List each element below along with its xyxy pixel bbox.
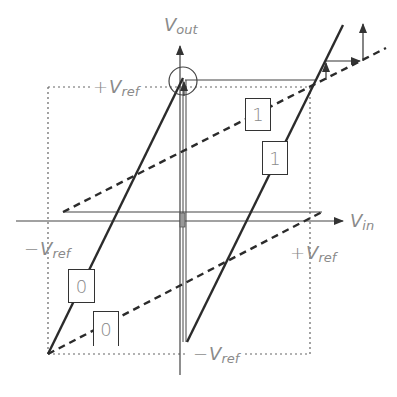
y-axis-label-sub: out bbox=[176, 22, 197, 37]
right-solid-characteristic bbox=[187, 25, 343, 342]
x-axis-label: Vin bbox=[350, 210, 374, 231]
hysteresis-diagram bbox=[0, 0, 397, 397]
sub: ref bbox=[221, 351, 239, 366]
sign: − bbox=[193, 343, 208, 364]
y-axis-label: Vout bbox=[164, 14, 198, 35]
vertical-transition-lines bbox=[183, 80, 186, 342]
minus-vref-left-label: −Vref bbox=[24, 238, 70, 259]
sub: ref bbox=[318, 250, 336, 265]
bit-box-lower-solid: 0 bbox=[68, 269, 95, 303]
main: V bbox=[306, 242, 318, 263]
plus-vref-top-label: +Vref bbox=[91, 76, 141, 97]
bit-box-upper-solid: 1 bbox=[262, 141, 288, 175]
sign: − bbox=[24, 238, 39, 259]
plus-vref-right-label: +Vref bbox=[290, 242, 336, 263]
sub: ref bbox=[52, 246, 70, 261]
bit-box-lower-dashed: 0 bbox=[93, 311, 119, 346]
main: V bbox=[40, 238, 52, 259]
sign: + bbox=[290, 242, 305, 263]
sign: + bbox=[93, 76, 108, 97]
main: V bbox=[109, 76, 121, 97]
main: V bbox=[209, 343, 221, 364]
bit-box-upper-dashed: 1 bbox=[245, 98, 271, 131]
x-axis-label-sub: in bbox=[362, 218, 374, 233]
y-axis-label-main: V bbox=[164, 14, 176, 35]
axis-crossing-marker bbox=[180, 213, 185, 227]
x-axis-label-main: V bbox=[350, 210, 362, 231]
minus-vref-bottom-label: −Vref bbox=[191, 343, 241, 364]
sub: ref bbox=[121, 84, 139, 99]
upper-dashed-characteristic bbox=[63, 48, 386, 212]
offset-arrows bbox=[326, 24, 363, 80]
